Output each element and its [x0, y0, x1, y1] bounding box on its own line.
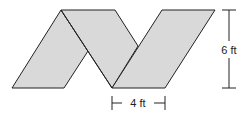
height-dimension: 6 ft	[221, 10, 236, 88]
base-label: 4 ft	[130, 97, 145, 109]
parallelogram-diagram: 6 ft 4 ft	[0, 0, 251, 117]
base-dimension: 4 ft	[112, 96, 165, 110]
height-label: 6 ft	[221, 44, 236, 56]
